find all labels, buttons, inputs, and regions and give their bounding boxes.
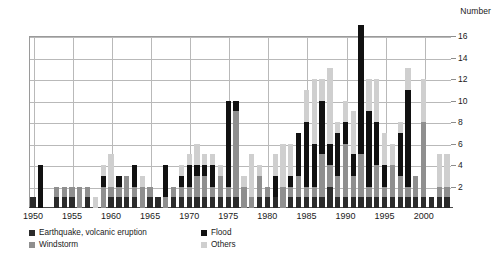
bar-segment-earthquake-1997 (398, 197, 403, 208)
bar-segment-windstorm-1977 (241, 187, 246, 209)
legend-item-flood[interactable]: Flood (201, 228, 231, 237)
chart-legend: Earthquake, volcanic eruption Flood Wind… (29, 228, 429, 252)
bar-1967 (163, 165, 168, 208)
bar-segment-earthquake-1963 (132, 197, 137, 208)
legend-item-earthquake[interactable]: Earthquake, volcanic eruption (29, 228, 201, 237)
x-tick-label-1980: 1980 (257, 211, 277, 221)
x-tick-label-1950: 1950 (23, 211, 43, 221)
bar-segment-windstorm-1999 (413, 176, 418, 198)
bar-1969 (179, 165, 184, 208)
x-tick-label-1990: 1990 (335, 211, 355, 221)
y-tick-mark-16 (451, 36, 456, 37)
bar-segment-earthquake-1990 (343, 197, 348, 208)
legend-swatch-others-icon (201, 242, 207, 248)
bar-segment-windstorm-1989 (335, 176, 340, 198)
bar-segment-others-1993 (366, 79, 371, 111)
y-tick-label-12: 12 (458, 74, 467, 84)
bar-segment-others-1970 (187, 154, 192, 165)
y-tick-mark-8 (451, 122, 456, 123)
bar-1974 (218, 165, 223, 208)
bar-segment-windstorm-1973 (210, 187, 215, 198)
bar-segment-others-1981 (273, 154, 278, 176)
bar-segment-flood-1985 (304, 122, 309, 187)
bar-2000 (421, 79, 426, 208)
bar-segment-earthquake-1968 (171, 197, 176, 208)
bar-segment-windstorm-1994 (374, 165, 379, 197)
bar-segment-flood-1971 (194, 165, 199, 176)
bar-segment-windstorm-1980 (265, 187, 270, 198)
bar-segment-flood-1975 (226, 101, 231, 187)
legend-label-flood: Flood (211, 228, 231, 237)
bar-1954 (62, 187, 67, 209)
bar-1962 (124, 176, 129, 208)
y-tick-label-2: 2 (458, 182, 463, 192)
bar-segment-flood-1993 (366, 111, 371, 186)
legend-swatch-earthquake-icon (29, 230, 35, 236)
bar-segment-windstorm-1961 (116, 187, 121, 198)
bar-segment-windstorm-1965 (147, 187, 152, 198)
bar-1996 (390, 144, 395, 209)
bar-segment-earthquake-2003 (444, 197, 449, 208)
bar-segment-windstorm-1979 (257, 176, 262, 198)
bar-segment-others-2000 (421, 79, 426, 122)
bar-segment-earthquake-1981 (273, 197, 278, 208)
legend-item-windstorm[interactable]: Windstorm (29, 240, 201, 249)
bar-1985 (304, 90, 309, 208)
bar-1957 (85, 187, 90, 209)
bar-2003 (444, 154, 449, 208)
bar-segment-windstorm-1970 (187, 187, 192, 198)
bar-segment-windstorm-1986 (312, 187, 317, 198)
bar-1991 (351, 111, 356, 208)
bar-segment-windstorm-1971 (194, 176, 199, 198)
bar-segment-earthquake-1991 (351, 197, 356, 208)
bar-segment-flood-1997 (398, 133, 403, 176)
bar-segment-earthquake-1993 (366, 197, 371, 208)
bar-1975 (226, 101, 231, 209)
y-tick-mark-2 (451, 187, 456, 188)
bar-segment-others-1982 (280, 144, 285, 187)
x-tick-label-1985: 1985 (296, 211, 316, 221)
bar-segment-windstorm-1953 (54, 187, 59, 198)
bar-1981 (273, 154, 278, 208)
bar-segment-flood-1969 (179, 176, 184, 187)
chart-figure: Number 246810121416 19501955196019651970… (0, 0, 499, 264)
bar-segment-earthquake-1960 (108, 197, 113, 208)
bar-segment-flood-1973 (210, 165, 215, 187)
bar-segment-flood-1963 (132, 165, 137, 187)
bar-segment-windstorm-1976 (233, 111, 238, 197)
bar-segment-windstorm-2000 (421, 122, 426, 197)
bar-segment-earthquake-1983 (288, 197, 293, 208)
bar-segment-others-1985 (304, 90, 309, 122)
bar-segment-others-1986 (312, 79, 317, 144)
y-tick-mark-14 (451, 58, 456, 59)
bar-segment-others-2002 (437, 154, 442, 186)
bar-segment-earthquake-1989 (335, 197, 340, 208)
bar-segment-earthquake-1994 (374, 197, 379, 208)
bar-1956 (77, 187, 82, 209)
bar-segment-earthquake-2001 (429, 197, 434, 208)
bar-segment-earthquake-1969 (179, 197, 184, 208)
bar-segment-earthquake-1957 (85, 197, 90, 208)
bars-layer (29, 36, 451, 208)
bar-segment-earthquake-1961 (116, 197, 121, 208)
x-tick-label-1965: 1965 (140, 211, 160, 221)
bar-segment-earthquake-1987 (319, 197, 324, 208)
bar-segment-windstorm-1969 (179, 187, 184, 198)
bar-1961 (116, 176, 121, 208)
bar-1970 (187, 154, 192, 208)
bar-segment-windstorm-1975 (226, 187, 231, 198)
bar-segment-windstorm-1985 (304, 187, 309, 198)
bar-1995 (382, 133, 387, 208)
legend-item-others[interactable]: Others (201, 240, 236, 249)
bar-1998 (405, 68, 410, 208)
bar-1988 (327, 68, 332, 208)
bar-segment-earthquake-1971 (194, 197, 199, 208)
bar-segment-flood-1995 (382, 165, 387, 187)
bar-1987 (319, 79, 324, 208)
bar-1994 (374, 79, 379, 208)
bar-1958 (93, 197, 98, 208)
bar-segment-others-1974 (218, 165, 223, 176)
bar-segment-earthquake-1980 (265, 197, 270, 208)
bar-1990 (343, 101, 348, 209)
bar-segment-others-1997 (398, 122, 403, 133)
